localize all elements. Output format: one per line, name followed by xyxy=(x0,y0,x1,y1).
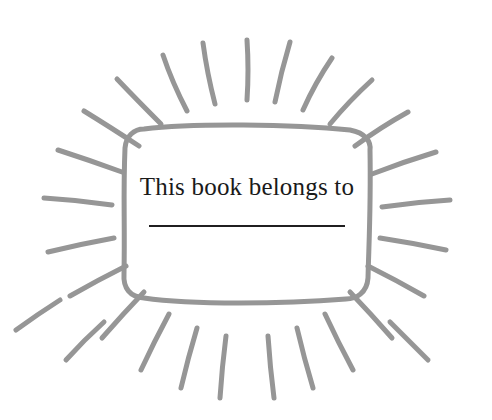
bookplate-page: This book belongs to xyxy=(0,0,492,420)
signature-line[interactable] xyxy=(149,225,345,227)
plate-caption: This book belongs to xyxy=(140,174,354,199)
plate-content: This book belongs to xyxy=(122,126,372,300)
